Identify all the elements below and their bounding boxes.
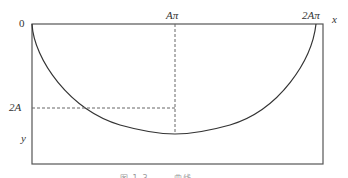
y-axis-label: y <box>21 133 26 144</box>
figure-caption: 图 1-3 …… 曲线 <box>120 172 192 178</box>
origin-label: 0 <box>19 18 25 29</box>
two-a-label: 2A <box>9 102 21 113</box>
cycloid-diagram <box>0 0 348 178</box>
x-axis-label: x <box>332 14 337 25</box>
cycloid-curve <box>32 24 316 134</box>
a-pi-label: Aπ <box>166 10 178 21</box>
two-a-pi-label: 2Aπ <box>302 10 320 21</box>
